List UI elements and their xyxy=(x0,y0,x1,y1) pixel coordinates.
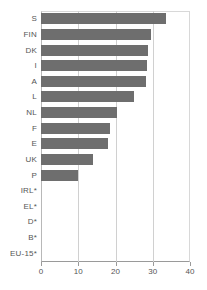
bar-row xyxy=(41,214,190,230)
bar-rows xyxy=(41,11,190,261)
bar-row xyxy=(41,89,190,105)
bar-chart: SFINDKIALNLFEUKPIRL*EL*D*B*EU-15* 010203… xyxy=(0,0,207,290)
y-axis-label: I xyxy=(0,58,37,74)
y-axis-label: EL* xyxy=(0,199,37,215)
tick-mark xyxy=(190,262,191,266)
x-axis-tick-label: 0 xyxy=(39,267,43,276)
bar-row xyxy=(41,230,190,246)
bar-row xyxy=(41,136,190,152)
tick-mark xyxy=(153,262,154,266)
y-axis-label: NL xyxy=(0,105,37,121)
y-axis-label: D* xyxy=(0,214,37,230)
bar-row xyxy=(41,105,190,121)
bar-row xyxy=(41,11,190,27)
bar-row xyxy=(41,245,190,261)
x-axis-tick-label: 30 xyxy=(148,267,157,276)
y-axis-category-labels: SFINDKIALNLFEUKPIRL*EL*D*B*EU-15* xyxy=(0,11,37,261)
bar xyxy=(41,13,166,24)
x-axis-tick-label: 40 xyxy=(186,267,195,276)
y-axis-label: IRL* xyxy=(0,183,37,199)
y-axis-label: A xyxy=(0,74,37,90)
bar xyxy=(41,154,93,165)
y-axis-label: EU-15* xyxy=(0,245,37,261)
plot-area xyxy=(41,11,190,262)
tick-mark xyxy=(41,262,42,266)
y-axis-label: S xyxy=(0,11,37,27)
y-axis-label: DK xyxy=(0,42,37,58)
bar xyxy=(41,76,146,87)
bar xyxy=(41,123,110,134)
bar xyxy=(41,138,108,149)
bar-row xyxy=(41,167,190,183)
y-axis-label: E xyxy=(0,136,37,152)
y-axis-label: FIN xyxy=(0,27,37,43)
bar xyxy=(41,170,78,181)
bar xyxy=(41,29,151,40)
bar xyxy=(41,107,117,118)
tick-mark xyxy=(78,262,79,266)
bar xyxy=(41,60,147,71)
y-axis-label: L xyxy=(0,89,37,105)
y-axis-label: P xyxy=(0,167,37,183)
x-axis-tick-labels: 010203040 xyxy=(0,267,207,281)
bar-row xyxy=(41,183,190,199)
bar-row xyxy=(41,152,190,168)
x-axis-tick-label: 10 xyxy=(74,267,83,276)
y-axis-label: UK xyxy=(0,152,37,168)
bar-row xyxy=(41,120,190,136)
bar-row xyxy=(41,74,190,90)
tick-mark xyxy=(116,262,117,266)
bar-row xyxy=(41,199,190,215)
bar-row xyxy=(41,58,190,74)
bar-row xyxy=(41,27,190,43)
x-axis-tick-label: 20 xyxy=(111,267,120,276)
bar xyxy=(41,45,148,56)
x-axis-tick-marks xyxy=(41,262,190,266)
bar-row xyxy=(41,42,190,58)
y-axis-label: F xyxy=(0,120,37,136)
y-axis-label: B* xyxy=(0,230,37,246)
bar xyxy=(41,91,134,102)
